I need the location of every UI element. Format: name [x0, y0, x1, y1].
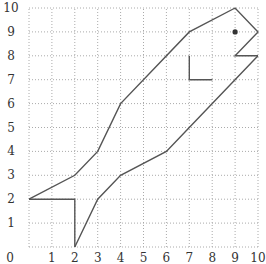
fin-line: [189, 56, 212, 80]
fish-coordinate-plot: 012345678910 12345678910: [0, 0, 266, 264]
y-tick-label: 8: [7, 49, 15, 63]
y-tick-label: 5: [7, 121, 15, 135]
x-tick-label: 0: [6, 251, 14, 264]
x-tick-label: 1: [48, 251, 56, 264]
eye-dot: [233, 29, 238, 34]
x-tick-label: 6: [163, 251, 171, 264]
y-tick-label: 1: [7, 216, 15, 230]
y-tick-label: 9: [7, 25, 15, 39]
y-tick-label: 10: [3, 1, 18, 15]
grid-lines: [29, 8, 258, 247]
y-tick-label: 6: [7, 97, 15, 111]
x-axis-ticks: 012345678910: [6, 251, 265, 264]
x-tick-label: 3: [94, 251, 102, 264]
x-tick-label: 5: [140, 251, 148, 264]
y-tick-label: 3: [7, 168, 15, 182]
x-tick-label: 7: [185, 251, 193, 264]
eye-marker: [233, 29, 238, 34]
y-tick-label: 7: [7, 73, 15, 87]
x-tick-label: 8: [208, 251, 216, 264]
x-tick-label: 10: [250, 251, 265, 264]
x-tick-label: 9: [231, 251, 239, 264]
y-axis-ticks: 12345678910: [3, 1, 18, 230]
y-tick-label: 2: [7, 192, 15, 206]
x-tick-label: 2: [71, 251, 79, 264]
y-tick-label: 4: [7, 144, 15, 158]
x-tick-label: 4: [117, 251, 125, 264]
